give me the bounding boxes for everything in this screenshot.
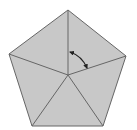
- pentagon-diagram: [0, 0, 137, 130]
